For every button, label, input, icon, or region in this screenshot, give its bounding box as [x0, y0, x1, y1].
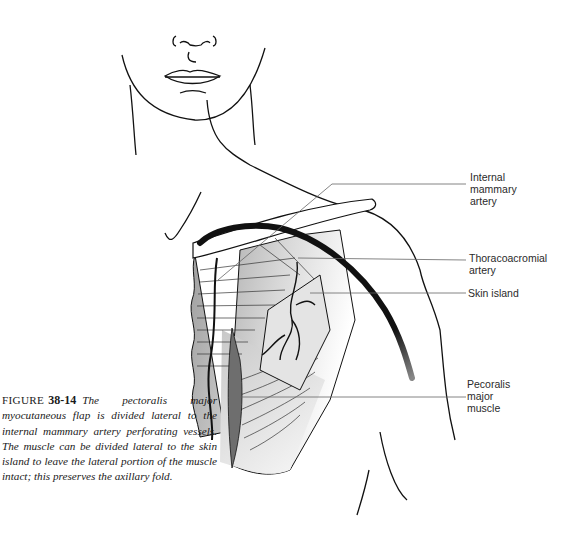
figure-caption: FIGURE38-14The pectoralis major myocutan… — [2, 393, 217, 485]
label-skin-island: Skin island — [468, 287, 519, 299]
figure-prefix: FIGURE — [2, 394, 44, 406]
label-pectoralis-major-muscle: Pecoralis major muscle — [467, 378, 510, 414]
figure-number: 38-14 — [48, 393, 76, 407]
label-thoracoacromial-artery: Thoracoacromial artery — [469, 252, 547, 276]
face — [122, 36, 265, 155]
label-internal-mammary-artery: Internal mammary artery — [470, 171, 517, 207]
caption-text: The pectoralis major myocutaneous flap i… — [2, 394, 217, 482]
